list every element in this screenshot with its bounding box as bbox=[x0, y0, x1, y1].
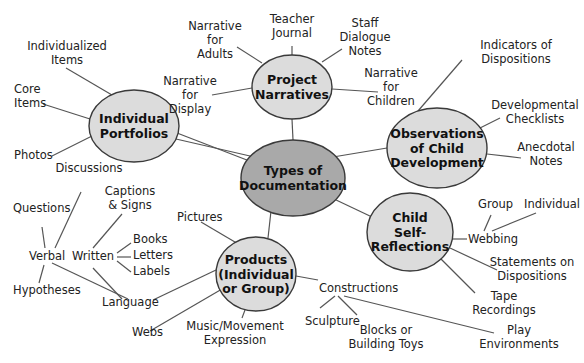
connector-line bbox=[296, 276, 318, 280]
leaf-label: Indicators of bbox=[480, 38, 553, 52]
connector-line bbox=[440, 258, 475, 293]
node-label: or Group) bbox=[222, 281, 290, 296]
leaf-language: Language bbox=[102, 295, 159, 309]
leaf-label: Items bbox=[51, 53, 83, 67]
node-label: Observations bbox=[390, 126, 483, 141]
leaf-webbing: Webbing bbox=[468, 232, 518, 246]
leaf-label: Pictures bbox=[177, 210, 223, 224]
leaf-label: Labels bbox=[133, 264, 170, 278]
node-label: Self- bbox=[394, 225, 426, 240]
leaf-staff-dialogue-notes: StaffDialogueNotes bbox=[340, 16, 391, 58]
leaf-label: Dialogue bbox=[340, 30, 391, 44]
leaf-label: Notes bbox=[529, 154, 562, 168]
leaf-label: Journal bbox=[271, 26, 312, 40]
connector-line bbox=[117, 243, 131, 253]
connector-line bbox=[484, 215, 491, 231]
leaf-label: Letters bbox=[133, 248, 173, 262]
leaf-label: Building Toys bbox=[348, 337, 423, 351]
leaf-captions-signs: Captions& Signs bbox=[105, 184, 155, 212]
leaf-label: for bbox=[182, 88, 198, 102]
leaf-play-environments: PlayEnvironments bbox=[479, 323, 558, 351]
connector-line bbox=[418, 60, 462, 111]
connector-line bbox=[212, 88, 252, 95]
leaf-label: Staff bbox=[352, 16, 380, 30]
node-label: of Child bbox=[410, 141, 464, 156]
leaf-questions: Questions bbox=[13, 201, 70, 215]
leaf-label: for bbox=[383, 80, 399, 94]
leaf-label: Core bbox=[14, 82, 41, 96]
node-project-narratives: ProjectNarratives bbox=[252, 55, 332, 119]
leaf-label: Dispositions bbox=[497, 269, 567, 283]
leaf-label: Individual bbox=[524, 197, 580, 211]
connector-line bbox=[52, 136, 92, 156]
connector-line bbox=[42, 227, 45, 248]
leaf-label: Photos bbox=[14, 148, 53, 162]
connector-line bbox=[66, 68, 112, 95]
leaf-labels: Labels bbox=[133, 264, 170, 278]
node-label: Portfolios bbox=[100, 126, 169, 141]
leaf-blocks-building-toys: Blocks orBuilding Toys bbox=[348, 323, 423, 351]
leaf-label: Tape bbox=[490, 289, 518, 303]
leaf-discussions: Discussions bbox=[55, 161, 122, 175]
leaf-label: Hypotheses bbox=[13, 283, 81, 297]
leaf-letters: Letters bbox=[133, 248, 173, 262]
connector-line bbox=[332, 89, 378, 92]
leaf-photos: Photos bbox=[14, 148, 53, 162]
connector-line bbox=[177, 133, 252, 162]
leaf-constructions: Constructions bbox=[319, 281, 398, 295]
connector-line bbox=[93, 214, 122, 248]
leaf-narrative-for-adults: NarrativeforAdults bbox=[188, 19, 242, 61]
leaf-label: Verbal bbox=[29, 249, 65, 263]
leaf-books: Books bbox=[133, 232, 168, 246]
leaf-label: Discussions bbox=[55, 161, 122, 175]
connector-line bbox=[322, 49, 342, 62]
leaf-indicators-of-dispositions: Indicators ofDispositions bbox=[480, 38, 553, 66]
node-label: Narratives bbox=[255, 87, 329, 102]
node-label: Types of bbox=[264, 163, 323, 178]
connector-line bbox=[492, 213, 536, 231]
leaf-core-items: CoreItems bbox=[14, 82, 46, 110]
leaf-label: Narrative bbox=[364, 66, 418, 80]
leaf-label: Statements on bbox=[490, 255, 575, 269]
connector-line bbox=[268, 211, 271, 238]
leaf-label: Adults bbox=[197, 47, 233, 61]
leaf-music-movement-expression: Music/MovementExpression bbox=[186, 319, 284, 347]
leaf-label: Anecdotal bbox=[517, 140, 575, 154]
connector-line bbox=[201, 222, 240, 245]
connector-line bbox=[487, 154, 521, 158]
leaf-written: Written bbox=[72, 249, 114, 263]
leaf-label: Webbing bbox=[468, 232, 518, 246]
node-child-self-reflections: ChildSelf-Reflections bbox=[367, 193, 453, 271]
connector-line bbox=[242, 310, 245, 318]
connector-line bbox=[334, 199, 372, 217]
node-label: Development bbox=[390, 155, 484, 170]
leaf-narrative-for-children: NarrativeforChildren bbox=[364, 66, 418, 108]
leaf-label: Captions bbox=[105, 184, 155, 198]
leaf-label: Notes bbox=[348, 44, 381, 58]
node-label: Products bbox=[225, 252, 288, 267]
leaf-developmental-checklists: DevelopmentalChecklists bbox=[491, 98, 579, 126]
leaf-label: Blocks or bbox=[360, 323, 413, 337]
types-of-documentation-diagram: Types ofDocumentationIndividualPortfolio… bbox=[0, 0, 584, 363]
connector-line bbox=[320, 296, 335, 308]
leaf-label: Constructions bbox=[319, 281, 398, 295]
node-label: Child bbox=[392, 210, 428, 225]
leaf-label: Items bbox=[14, 96, 46, 110]
leaf-individualized-items: IndividualizedItems bbox=[27, 39, 107, 67]
connector-line bbox=[117, 261, 131, 272]
leaf-sculpture: Sculpture bbox=[305, 314, 360, 328]
node-label: Reflections bbox=[371, 239, 449, 254]
node-center: Types ofDocumentation bbox=[239, 140, 347, 216]
leaf-verbal: Verbal bbox=[29, 249, 65, 263]
node-label: Individual bbox=[99, 111, 169, 126]
node-label: Project bbox=[267, 72, 317, 87]
leaf-narrative-for-display: NarrativeforDisplay bbox=[163, 74, 217, 116]
leaf-label: Expression bbox=[204, 333, 266, 347]
node-individual-portfolios: IndividualPortfolios bbox=[89, 90, 179, 162]
leaf-label: Display bbox=[169, 102, 212, 116]
node-observations-of-child-development: Observationsof ChildDevelopment bbox=[387, 108, 487, 188]
connector-line bbox=[333, 148, 387, 157]
connector-line bbox=[39, 265, 44, 283]
leaf-label: Language bbox=[102, 295, 159, 309]
leaf-label: Questions bbox=[13, 201, 70, 215]
